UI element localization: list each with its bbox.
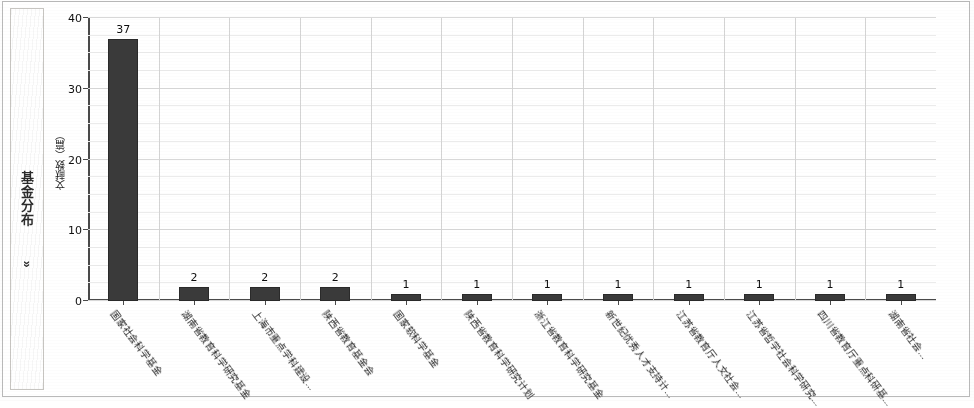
x-axis-tick-label: 新世纪优秀人才支持计... xyxy=(603,307,678,400)
bar-value-label: 1 xyxy=(897,278,904,291)
bar-value-label: 37 xyxy=(116,23,130,36)
sidebar-fund-distribution[interactable]: 基金分布 » xyxy=(10,8,44,390)
y-axis-tick-label: 20 xyxy=(68,153,82,166)
x-axis-tick-mark xyxy=(830,301,831,305)
bar[interactable] xyxy=(250,287,280,301)
category-separator xyxy=(229,18,230,301)
category-separator xyxy=(159,18,160,301)
bar-value-label: 1 xyxy=(544,278,551,291)
x-axis-tick-mark xyxy=(123,301,124,305)
bar[interactable] xyxy=(744,294,774,301)
bar[interactable] xyxy=(532,294,562,301)
y-axis-tick-mark xyxy=(83,229,88,230)
category-separator xyxy=(795,18,796,301)
bar-value-label: 1 xyxy=(403,278,410,291)
bar-value-label: 1 xyxy=(615,278,622,291)
bar-value-label: 1 xyxy=(473,278,480,291)
y-axis-tick-label: 0 xyxy=(75,295,82,308)
category-separator xyxy=(371,18,372,301)
y-axis-label: 文献数（篇） xyxy=(53,130,68,190)
x-axis-tick-label: 江苏省教育厅人文社会... xyxy=(673,307,748,400)
fund-distribution-bar-chart: 文献数（篇） 0102030403722211111111 国家社会科学基金湖南… xyxy=(60,8,960,390)
bar[interactable] xyxy=(108,39,138,301)
x-axis-tick-mark xyxy=(194,301,195,305)
y-axis-tick-label: 40 xyxy=(68,12,82,25)
x-axis-tick-label: 陕西省教育基金会 xyxy=(320,307,378,378)
x-axis-tick-mark xyxy=(618,301,619,305)
bar-value-label: 2 xyxy=(261,271,268,284)
x-axis-tick-label: 湖南省教育科学研究基金 xyxy=(179,307,255,402)
x-axis-tick-label: 浙江省教育科学研究基金 xyxy=(532,307,608,402)
x-axis-tick-label: 上海市重点学科建设... xyxy=(249,307,318,393)
bar[interactable] xyxy=(674,294,704,301)
x-axis-tick-label: 湖南省社会... xyxy=(885,307,931,361)
x-axis-tick-mark xyxy=(759,301,760,305)
category-separator xyxy=(512,18,513,301)
bar[interactable] xyxy=(462,294,492,301)
y-axis xyxy=(88,18,90,301)
x-axis-tick-mark xyxy=(547,301,548,305)
bar[interactable] xyxy=(320,287,350,301)
bar[interactable] xyxy=(603,294,633,301)
category-separator xyxy=(865,18,866,301)
bar-value-label: 2 xyxy=(332,271,339,284)
x-axis-tick-mark xyxy=(689,301,690,305)
category-separator xyxy=(653,18,654,301)
x-axis-tick-label: 国家社会科学基金 xyxy=(108,307,166,378)
y-axis-tick-mark xyxy=(83,17,88,18)
category-separator xyxy=(583,18,584,301)
x-axis-tick-label: 陕西省教育科学研究计划 xyxy=(461,307,537,402)
x-axis-tick-mark xyxy=(265,301,266,305)
y-axis-tick-label: 10 xyxy=(68,224,82,237)
bar-value-label: 1 xyxy=(827,278,834,291)
x-axis-tick-mark xyxy=(477,301,478,305)
bar[interactable] xyxy=(815,294,845,301)
x-axis-tick-mark xyxy=(335,301,336,305)
y-axis-tick-label: 30 xyxy=(68,82,82,95)
y-axis-tick-mark xyxy=(83,300,88,301)
y-axis-tick-mark xyxy=(83,88,88,89)
x-axis-tick-label: 国家软科学基金 xyxy=(391,307,443,370)
x-axis-tick-mark xyxy=(406,301,407,305)
sidebar-item-label: 基金分布 xyxy=(18,171,37,227)
chevron-right-icon: » xyxy=(20,261,34,268)
category-separator xyxy=(724,18,725,301)
plot-area: 0102030403722211111111 xyxy=(88,18,936,301)
y-axis-tick-mark xyxy=(83,159,88,160)
bar-value-label: 1 xyxy=(685,278,692,291)
bar[interactable] xyxy=(886,294,916,301)
bar[interactable] xyxy=(391,294,421,301)
category-separator xyxy=(300,18,301,301)
bar-value-label: 1 xyxy=(756,278,763,291)
x-axis-tick-mark xyxy=(901,301,902,305)
bar[interactable] xyxy=(179,287,209,301)
bar-value-label: 2 xyxy=(191,271,198,284)
category-separator xyxy=(441,18,442,301)
